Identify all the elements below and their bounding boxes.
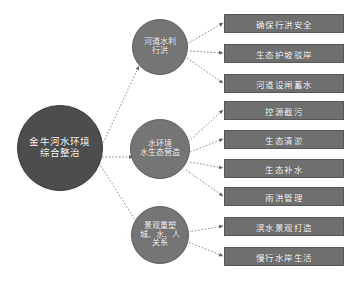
- edge-landscape-to-leaf-2: [186, 241, 223, 256]
- leaf-box-ecological-dredging[interactable]: 生态清淤: [224, 130, 344, 149]
- diagram-canvas: 金牛河水环境 综合整治 河道水利 行洪 水环境 水生态营造 景观重塑 城、水、人…: [0, 0, 352, 282]
- leaf-box-ecological-water-replenishment[interactable]: 生态补水: [224, 159, 344, 178]
- leaf-box-pollution-source-control[interactable]: 控源截污: [224, 101, 344, 120]
- leaf-box-label: 河道设闸蓄水: [256, 78, 313, 90]
- leaf-box-river-gate-water-storage[interactable]: 河道设闸蓄水: [224, 74, 344, 93]
- leaf-box-ensure-flood-safety[interactable]: 确保行洪安全: [224, 14, 344, 33]
- branch-node-landscape[interactable]: 景观重塑 城、水、人 关系: [131, 206, 189, 264]
- branch-node-hydraulic[interactable]: 河道水利 行洪: [132, 19, 188, 75]
- edge-ecology-to-leaf-4: [186, 170, 223, 196]
- branch-node-landscape-label: 景观重塑 城、水、人 关系: [137, 222, 184, 249]
- leaf-box-label: 生态清淤: [265, 134, 303, 146]
- leaf-box-label: 确保行洪安全: [256, 18, 313, 30]
- edge-hydraulic-to-leaf-1: [187, 23, 223, 44]
- leaf-box-label: 生态补水: [265, 163, 303, 175]
- leaf-box-label: 雨洪管理: [265, 191, 303, 203]
- branch-node-hydraulic-label: 河道水利 行洪: [141, 38, 180, 56]
- root-node-comprehensive-treatment[interactable]: 金牛河水环境 综合整治: [17, 105, 103, 191]
- branch-node-ecology-label: 水环境 水生态营造: [137, 140, 184, 158]
- leaf-box-waterfront-landscape-creation[interactable]: 滨水景观打造: [224, 217, 344, 236]
- branch-node-ecology[interactable]: 水环境 水生态营造: [130, 119, 190, 179]
- edge-root-to-landscape: [99, 163, 139, 226]
- leaf-box-ecological-slope-revetment[interactable]: 生态护坡驳岸: [224, 44, 344, 63]
- edge-ecology-to-leaf-3: [190, 162, 223, 168]
- edge-hydraulic-to-leaf-3: [187, 58, 223, 83]
- leaf-box-slow-traffic-waterfront-life[interactable]: 慢行水岸生活: [224, 247, 344, 266]
- leaf-box-label: 生态护坡驳岸: [256, 48, 313, 60]
- edge-ecology-to-leaf-1: [186, 110, 223, 144]
- leaf-box-label: 慢行水岸生活: [256, 251, 313, 263]
- leaf-box-label: 控源截污: [265, 105, 303, 117]
- leaf-box-stormwater-management[interactable]: 雨洪管理: [224, 187, 344, 206]
- edge-landscape-to-leaf-1: [188, 226, 223, 232]
- leaf-box-label: 滨水景观打造: [256, 221, 313, 233]
- edge-hydraulic-to-leaf-2: [190, 51, 223, 53]
- edge-ecology-to-leaf-2: [190, 139, 223, 152]
- root-node-label: 金牛河水环境 综合整治: [26, 137, 93, 158]
